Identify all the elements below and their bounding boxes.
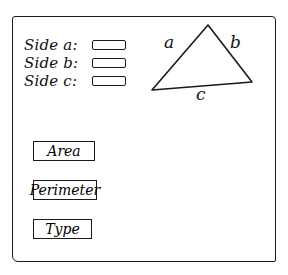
triangle-side-c-label: c	[196, 84, 206, 104]
side-b-input[interactable]	[92, 58, 126, 68]
area-button[interactable]: Area	[33, 141, 95, 161]
side-a-row: Side a:	[24, 36, 126, 54]
side-c-label: Side c:	[24, 72, 92, 90]
side-c-row: Side c:	[24, 72, 126, 90]
triangle-side-a-label: a	[164, 32, 174, 52]
type-button[interactable]: Type	[33, 219, 92, 239]
triangle-side-b-label: b	[230, 32, 241, 52]
side-a-label: Side a:	[24, 36, 92, 54]
perimeter-button[interactable]: Perimeter	[33, 180, 97, 200]
side-a-input[interactable]	[92, 40, 126, 50]
side-c-input[interactable]	[92, 76, 126, 86]
side-b-label: Side b:	[24, 54, 92, 72]
side-b-row: Side b:	[24, 54, 126, 72]
